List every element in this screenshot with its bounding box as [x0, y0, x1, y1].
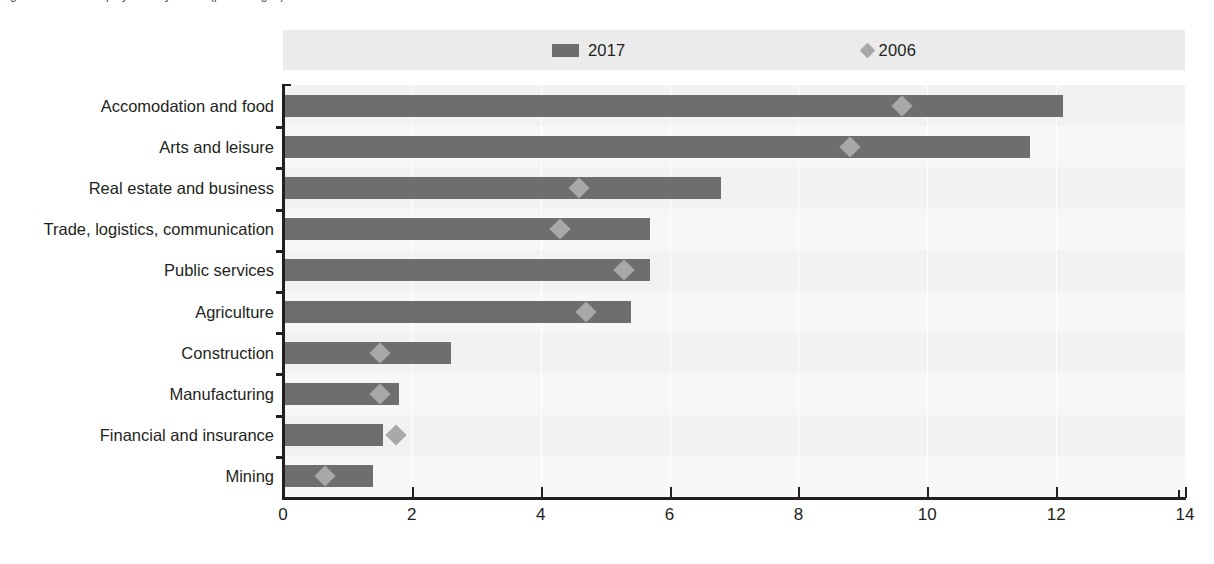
- y-axis-top-cap: [282, 84, 291, 86]
- category-label: Trade, logistics, communication: [44, 220, 274, 239]
- category-label: Agriculture: [195, 302, 274, 321]
- y-axis-tick: [276, 126, 283, 129]
- y-axis-tick: [276, 209, 283, 212]
- x-axis-tick: [1056, 487, 1058, 498]
- category-label: Manufacturing: [169, 385, 274, 404]
- x-axis-tick: [1185, 487, 1187, 498]
- x-axis-tick-label: 0: [278, 505, 287, 525]
- plot-row-band: [283, 456, 1185, 497]
- category-label: Arts and leisure: [159, 137, 274, 156]
- x-axis-tick-label: 14: [1176, 505, 1195, 525]
- bar-2017[interactable]: [283, 259, 650, 281]
- vertical-gridline: [1185, 85, 1186, 497]
- x-axis-tick: [412, 487, 414, 498]
- chart-legend: 2017 2006: [283, 30, 1185, 70]
- legend-bar-swatch-icon: [552, 44, 579, 57]
- x-axis-tick: [283, 487, 285, 498]
- bar-2017[interactable]: [283, 218, 650, 240]
- x-axis-tick: [670, 487, 672, 498]
- x-axis-tick-label: 12: [1047, 505, 1066, 525]
- x-axis-right-cap: [1178, 490, 1180, 500]
- bar-2017[interactable]: [283, 342, 451, 364]
- y-axis-tick: [276, 291, 283, 294]
- legend-diamond-swatch-icon: [859, 42, 875, 58]
- plot-area: [283, 85, 1185, 497]
- category-label: Real estate and business: [89, 179, 274, 198]
- bar-2017[interactable]: [283, 136, 1030, 158]
- x-axis-tick: [927, 487, 929, 498]
- bar-2017[interactable]: [283, 424, 383, 446]
- category-label: Accomodation and food: [101, 96, 274, 115]
- y-axis-tick: [276, 373, 283, 376]
- y-axis-tick: [276, 250, 283, 253]
- legend-entry-2006[interactable]: 2006: [862, 41, 917, 60]
- x-axis-tick-label: 8: [794, 505, 803, 525]
- x-axis-tick: [798, 487, 800, 498]
- category-axis-labels: Accomodation and foodArts and leisureRea…: [0, 0, 274, 564]
- x-axis-tick-label: 6: [665, 505, 674, 525]
- legend-label-2006: 2006: [879, 41, 917, 60]
- category-label: Financial and insurance: [100, 426, 274, 445]
- plot-row-band: [283, 373, 1185, 414]
- legend-entry-2017[interactable]: 2017: [552, 41, 626, 60]
- bar-2017[interactable]: [283, 95, 1063, 117]
- plot-row-band: [283, 415, 1185, 456]
- bar-2017[interactable]: [283, 177, 721, 199]
- category-label: Mining: [225, 467, 274, 486]
- legend-label-2017: 2017: [588, 41, 626, 60]
- y-axis-tick: [276, 456, 283, 459]
- y-axis-tick: [276, 415, 283, 418]
- y-axis-tick: [276, 167, 283, 170]
- x-axis-tick-label: 4: [536, 505, 545, 525]
- x-axis-tick: [541, 487, 543, 498]
- vertical-gridline: [1056, 85, 1057, 497]
- category-label: Public services: [164, 261, 274, 280]
- category-label: Construction: [181, 343, 274, 362]
- y-axis-tick: [276, 332, 283, 335]
- x-axis-line: [282, 497, 1186, 500]
- x-axis-tick-label: 10: [918, 505, 937, 525]
- x-axis-tick-label: 2: [407, 505, 416, 525]
